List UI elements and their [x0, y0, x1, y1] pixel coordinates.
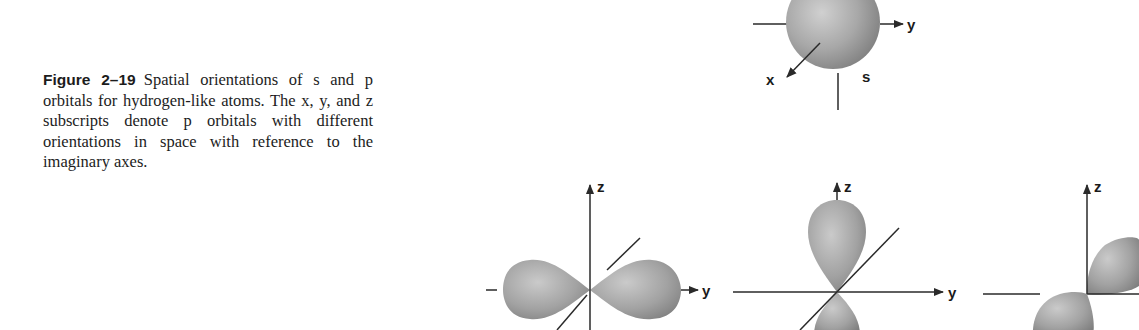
p1-y-label: y	[702, 282, 711, 299]
p-orbital-2-diagram: y z	[733, 178, 957, 330]
p3-lobe-upper	[1087, 237, 1139, 294]
s-orbital-sphere	[786, 0, 880, 69]
s-x-label: x	[766, 71, 775, 88]
p-orbital-3-diagram: z	[983, 178, 1139, 330]
p2-z-label: z	[844, 178, 852, 195]
s-y-label: y	[907, 16, 916, 33]
p2-lobe-top	[808, 200, 866, 292]
p3-z-label: z	[1094, 178, 1102, 195]
p2-y-label: y	[948, 284, 957, 301]
p2-lobe-bottom	[814, 292, 860, 330]
p3-lobe-lower	[1033, 292, 1094, 330]
s-orbital-label: s	[862, 68, 870, 85]
p-orbital-1-diagram: z y	[486, 178, 711, 330]
p1-lobe-right	[590, 260, 681, 319]
p1-z-label: z	[597, 178, 605, 195]
orbital-diagrams: y x s z y y z z	[0, 0, 1139, 330]
p1-lobe-left	[503, 260, 590, 319]
s-orbital-diagram: y x s	[753, 0, 916, 110]
